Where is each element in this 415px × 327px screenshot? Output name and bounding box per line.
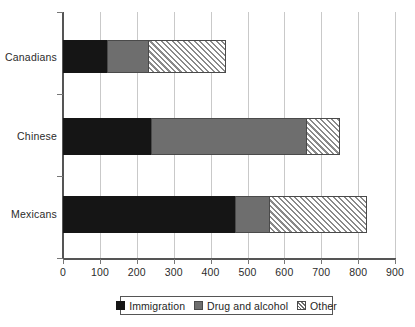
chart-legend: Immigration Drug and alcohol Other (120, 296, 333, 315)
x-axis-label-600: 600 (264, 266, 304, 278)
x-axis-label-500: 500 (228, 266, 268, 278)
bar-segment-chinese-other (306, 118, 340, 155)
x-axis-tick-0 (63, 259, 64, 264)
bar-segment-mexicans-immigration (63, 196, 236, 233)
bar-segment-mexicans-drug-and-alcohol (235, 196, 269, 233)
legend-item-drug-and-alcohol: Drug and alcohol (194, 300, 288, 312)
legend-swatch-drug-and-alcohol-icon (194, 301, 203, 310)
bar-segment-canadians-drug-and-alcohol (107, 40, 149, 73)
category-label-mexicans: Mexicans (11, 208, 57, 220)
y-axis-tick-1 (57, 94, 63, 95)
x-axis-label-700: 700 (301, 266, 341, 278)
x-axis-tick-800 (358, 259, 359, 264)
x-axis-tick-400 (211, 259, 212, 264)
x-axis-label-300: 300 (154, 266, 194, 278)
bar-segment-canadians-other (148, 40, 227, 73)
x-axis-tick-700 (321, 259, 322, 264)
x-axis-tick-500 (248, 259, 249, 264)
y-axis-tick-top (57, 12, 63, 13)
x-axis-label-100: 100 (80, 266, 120, 278)
legend-swatch-other-icon (297, 301, 306, 310)
legend-item-other: Other (297, 300, 337, 312)
legend-swatch-immigration-icon (116, 301, 125, 310)
legend-label-drug-and-alcohol: Drug and alcohol (207, 300, 288, 312)
x-axis-label-200: 200 (117, 266, 157, 278)
x-axis-tick-100 (100, 259, 101, 264)
bar-segment-chinese-drug-and-alcohol (151, 118, 307, 155)
category-label-canadians: Canadians (5, 51, 57, 63)
x-axis-label-400: 400 (191, 266, 231, 278)
x-axis-label-0: 0 (43, 266, 83, 278)
x-axis-tick-900 (395, 259, 396, 264)
x-axis-label-800: 800 (338, 266, 378, 278)
bar-segment-canadians-immigration (63, 40, 107, 73)
bar-segment-chinese-immigration (63, 118, 152, 155)
x-axis-tick-600 (284, 259, 285, 264)
category-label-chinese: Chinese (17, 130, 57, 142)
bar-segment-mexicans-other (269, 196, 367, 233)
x-axis-label-900: 900 (375, 266, 415, 278)
legend-item-immigration: Immigration (116, 300, 185, 312)
x-axis-tick-200 (137, 259, 138, 264)
stacked-bar-chart: 0 100 200 300 400 500 600 700 800 900 Ca… (0, 0, 415, 327)
gridline-900 (395, 12, 396, 258)
x-axis-tick-300 (174, 259, 175, 264)
legend-label-immigration: Immigration (129, 300, 185, 312)
legend-label-other: Other (310, 300, 337, 312)
y-axis-tick-2 (57, 176, 63, 177)
x-axis-line (63, 258, 396, 260)
